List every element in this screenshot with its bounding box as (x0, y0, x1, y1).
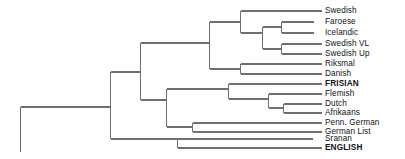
tree-branches-svg (0, 0, 405, 159)
phylogenetic-tree-figure: Swedish Faroese Icelandic Swedish VL Swe… (0, 0, 405, 159)
